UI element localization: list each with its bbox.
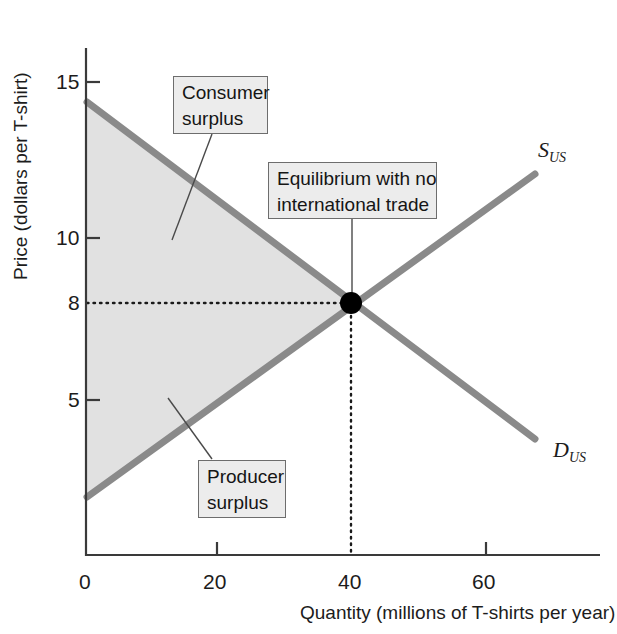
callout-producer-surplus-line2: surplus [207, 490, 277, 516]
equilibrium-point [340, 292, 362, 314]
supply-curve-label-sub: US [549, 150, 566, 165]
supply-curve-label: SUS [538, 137, 566, 166]
economics-supply-demand-figure: 15 10 8 5 0 20 40 60 Price (dollars per … [0, 0, 617, 634]
x-tick-label-60: 60 [472, 570, 495, 594]
y-tick-label-5: 5 [68, 388, 80, 412]
callout-equilibrium-line2: international trade [277, 192, 428, 218]
demand-curve-label: DUS [553, 437, 586, 466]
callout-producer-surplus: Producer surplus [198, 460, 286, 518]
callout-consumer-surplus-line1: Consumer [182, 80, 259, 106]
demand-curve-label-sub: US [569, 450, 586, 465]
callout-equilibrium: Equilibrium with no international trade [268, 162, 437, 219]
chart-canvas [0, 0, 617, 634]
callout-equilibrium-line1: Equilibrium with no [277, 166, 428, 192]
callout-consumer-surplus-line2: surplus [182, 106, 259, 132]
y-tick-label-8: 8 [68, 291, 80, 315]
x-tick-label-0: 0 [79, 570, 91, 594]
y-tick-label-10: 10 [56, 226, 79, 250]
x-tick-label-20: 20 [203, 570, 226, 594]
y-tick-label-15: 15 [56, 70, 79, 94]
supply-curve-label-main: S [538, 137, 549, 162]
x-axis-title: Quantity (millions of T-shirts per year) [300, 602, 615, 624]
demand-curve-label-main: D [553, 437, 569, 462]
x-tick-label-40: 40 [338, 570, 361, 594]
y-axis-title: Price (dollars per T-shirt) [10, 250, 260, 280]
callout-consumer-surplus: Consumer surplus [173, 76, 268, 134]
callout-producer-surplus-line1: Producer [207, 464, 277, 490]
